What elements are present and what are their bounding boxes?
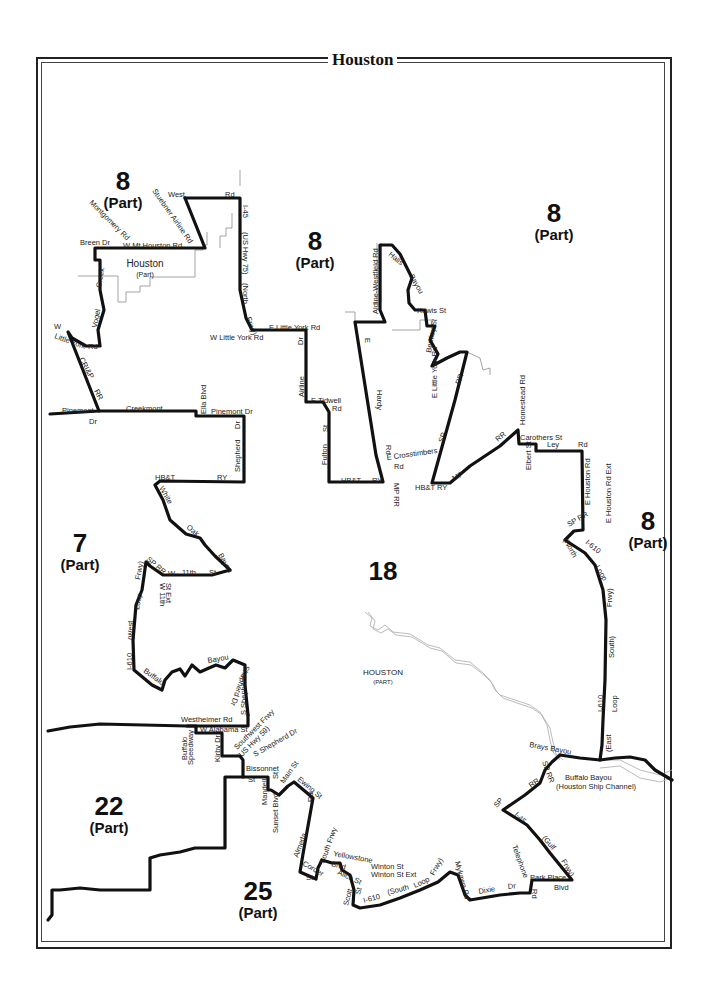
svg-text:(Part): (Part) [534,226,573,243]
city-label-houston-central: HOUSTON (PART) [363,668,403,685]
street-label: MP [451,469,465,482]
street-label: Little York [53,331,87,351]
street-label: E Little York Rd [430,347,439,398]
svg-text:(Part): (Part) [89,819,128,836]
street-label: Westheimer Rd [181,715,233,724]
district-8-northwest: 8 (Part) [103,166,142,211]
street-label: Aldine-Westfield Rd [371,248,380,314]
street-label: Bayou [207,652,230,665]
svg-text:18: 18 [369,556,398,586]
street-label: MP RR [392,483,401,508]
street-label: SP [436,431,448,443]
street-label: South Frwy [317,826,339,865]
street-label: Alice St [336,868,364,887]
street-label: Kirby Dr [213,734,222,762]
street-label: S Shepherd [239,675,248,715]
street-label: Rd [225,190,235,199]
street-label: Brays Bayou [529,740,572,756]
street-label: W Alabama St [200,725,248,734]
street-label: HB&T RY [415,483,447,492]
street-label: W Little York Rd [210,333,263,342]
street-label: RR [494,429,509,443]
street-label: I-610 [596,695,605,712]
street-label: W [54,322,62,331]
street-label: E Houston Rd [583,458,592,505]
street-label: Homestead Rd [518,375,527,425]
street-label: Loop [610,695,619,712]
street-label: Bayou [216,552,234,575]
svg-text:(Part): (Part) [103,194,142,211]
street-label: Mykawa Rd [453,860,472,900]
street-label: St Ext [164,583,173,604]
street-label: SP RR [145,555,169,577]
city-label-houston-nw: Houston (Part) [126,258,163,279]
street-label: Rd [394,462,404,471]
district-8-east: 8 (Part) [628,506,667,551]
svg-text:HOUSTON: HOUSTON [363,668,403,677]
street-label: Buffalo Bayou [565,773,612,782]
street-label: Rd [88,342,98,351]
street-label: I-610 [584,538,603,556]
street-label: Kowis St [417,306,447,315]
street-label: RY [372,476,382,485]
street-label: St [306,873,314,882]
street-label: Breen Dr [80,238,111,247]
street-label: RY [217,473,227,482]
street-label: 11th [182,568,196,577]
district-8-northeast: 8 (Part) [534,198,573,243]
street-label: (North [241,283,250,304]
street-label: (Gulf [540,834,558,853]
svg-text:8: 8 [116,166,130,196]
street-label: E Little York Rd [269,323,320,332]
street-label: Pinemont [62,406,95,415]
svg-text:(Part): (Part) [628,534,667,551]
svg-text:8: 8 [547,198,561,228]
street-label: Airline [297,376,306,397]
district-22: 22 (Part) [89,791,128,836]
street-label: CRI&P [77,356,96,380]
street-label: Creekmont [126,404,164,413]
street-label: Ley [547,440,559,449]
street-label: SP [492,796,505,809]
svg-text:(PART): (PART) [373,679,392,685]
street-label: Elbert St [524,440,533,470]
street-label: RR [92,388,105,402]
street-label: Rd [384,445,393,455]
street-label: Vogel [90,308,102,328]
street-label: I-610 [125,653,134,670]
street-label: Frwy) [428,856,445,877]
street-label: Dr [89,417,97,426]
street-label: Shepherd [233,439,242,472]
street-label: Dr [296,337,305,345]
street-label: St [353,885,364,895]
svg-text:22: 22 [95,791,124,821]
district-18: 18 [369,556,398,586]
street-label: (North [561,537,579,560]
street-label: E [363,338,372,343]
street-label: (US Hwy 75) [241,232,250,275]
street-label: W [168,569,176,578]
street-label: (West [126,620,135,640]
street-label: Rd [578,440,588,449]
street-label: Rd [530,889,539,899]
street-label: RR [453,372,465,386]
district-7: 7 (Part) [60,528,99,573]
street-label: Hardy [375,390,384,410]
street-label: Scott [341,887,354,907]
street-label: West [168,190,186,199]
street-label: Bayou [407,273,425,296]
district-25: 25 (Part) [238,876,277,921]
street-label: Almeda [291,831,308,859]
street-label: I-45 [513,810,529,826]
street-label: Telephone [510,844,530,880]
svg-text:8: 8 [641,506,655,536]
street-label: Halls [387,250,406,268]
svg-text:(Part): (Part) [295,254,334,271]
street-label: Speedway [186,730,195,765]
street-label: HB&T [341,476,361,485]
street-label: Dr [233,421,242,429]
street-label: Bissonnet [246,764,280,773]
street-label: Rd [306,792,315,802]
street-label: St [248,775,256,784]
svg-text:(Part): (Part) [238,904,277,921]
